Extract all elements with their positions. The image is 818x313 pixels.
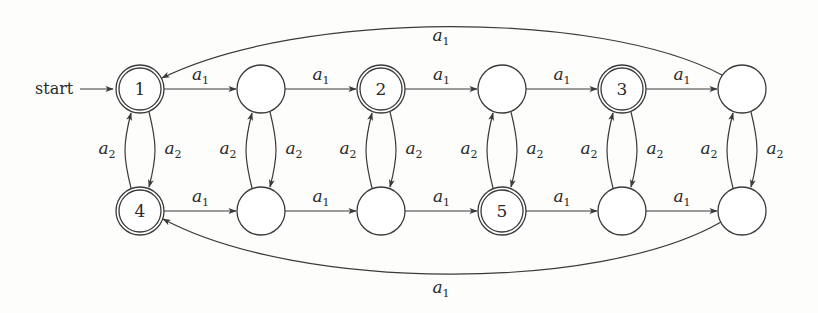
edge-label: a1 [192,186,209,209]
edge-label: a2 [219,138,236,161]
transition-b2-t2 [246,113,252,188]
state-label: 1 [135,79,146,99]
edge-label: a1 [673,186,690,209]
transition-q4-q1 [125,113,131,188]
edge-label: a1 [553,64,570,87]
edge-label: a2 [405,138,422,161]
edge-label: a2 [766,138,783,161]
automaton-diagram: start 12345 a1a1a1a1a1a1a1a1a1a1a1a1a2a2… [0,0,818,313]
state-t6 [718,65,766,113]
edge-label: a1 [312,186,329,209]
edge-label: a2 [285,138,302,161]
transition-b6-t6 [727,113,733,188]
edge-label: a1 [192,64,209,87]
edge-label: a1 [553,186,570,209]
edge-label: a2 [98,138,115,161]
edge-label: a2 [700,138,717,161]
state-t4 [478,65,526,113]
transition-q3-b5 [631,112,637,187]
edge-label: a2 [580,138,597,161]
edge-label: a1 [432,25,449,48]
transition-t4-q5 [511,112,517,187]
transition-t6-b6 [751,112,757,187]
state-q4: 4 [116,187,164,235]
edge-label: a1 [432,277,449,300]
edge-label: a1 [673,64,690,87]
state-q5: 5 [478,187,526,235]
transition-q1-q4 [149,112,155,187]
state-b2 [237,187,285,235]
start-marker: start [35,79,113,98]
state-q2: 2 [357,65,405,113]
state-b3 [357,187,405,235]
edge-label: a1 [433,186,450,209]
state-label: 4 [135,201,146,221]
edge-labels-layer: a1a1a1a1a1a1a1a1a1a1a1a1a2a2a2a2a2a2a2a2… [98,25,783,300]
edge-label: a2 [339,138,356,161]
edge-label: a2 [526,138,543,161]
state-label: 2 [376,79,387,99]
state-b5 [598,187,646,235]
nodes-layer: 12345 [116,65,766,235]
transition-b5-q3 [607,113,613,188]
edge-label: a2 [646,138,663,161]
state-q3: 3 [598,65,646,113]
state-label: 3 [617,79,628,99]
transition-t2-b2 [270,112,276,187]
state-label: 5 [497,201,508,221]
state-q1: 1 [116,65,164,113]
edge-label: a2 [460,138,477,161]
transition-b3-q2 [366,113,372,188]
transition-q2-b3 [390,112,396,187]
edge-label: a2 [164,138,181,161]
edge-label: a1 [433,64,450,87]
state-t2 [237,65,285,113]
state-b6 [718,187,766,235]
transition-q5-t4 [487,113,493,188]
edge-label: a1 [312,64,329,87]
start-label: start [35,79,74,98]
